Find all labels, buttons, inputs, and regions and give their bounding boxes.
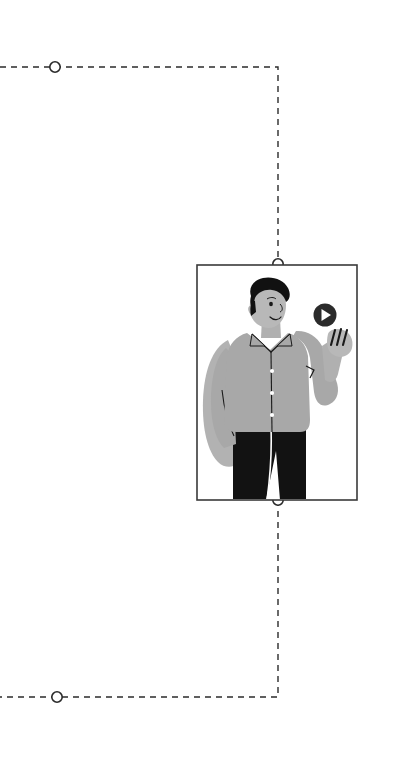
shirt-button [270, 369, 274, 373]
shirt-button [270, 413, 274, 417]
bottom-connector-path [0, 500, 278, 697]
connector-diagram [0, 0, 395, 774]
node-bottom-left[interactable] [52, 692, 62, 702]
node-top-left[interactable] [50, 62, 60, 72]
page-canvas [0, 0, 395, 774]
play-button-icon[interactable] [314, 304, 337, 327]
eye [269, 302, 273, 306]
shirt-button [270, 391, 274, 395]
top-connector-path [0, 67, 278, 264]
